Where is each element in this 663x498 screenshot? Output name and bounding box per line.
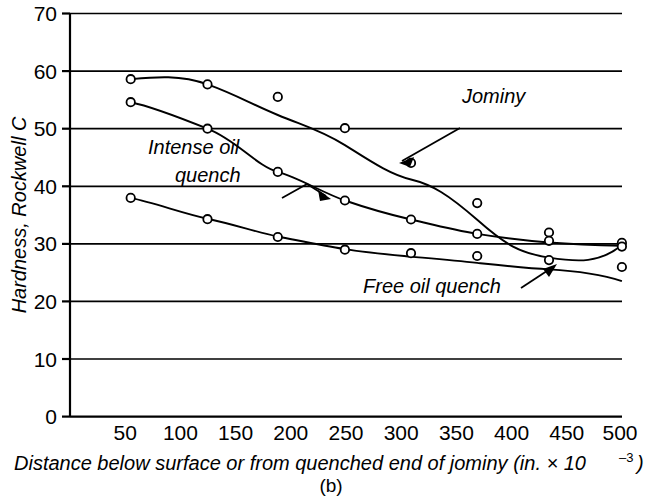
data-point [407,249,415,257]
y-tick-label-30: 30 [34,232,57,255]
data-point [473,199,481,207]
data-point [545,256,553,264]
figure-caption: (b) [319,475,342,496]
x-tick-label-50: 50 [114,421,137,444]
x-tick-label-350: 350 [439,421,474,444]
data-point [127,98,135,106]
data-point [274,93,282,101]
data-point [274,233,282,241]
data-point [341,196,349,204]
gridlines [70,14,622,360]
y-tick-label-70: 70 [34,2,57,25]
chart-canvas: 70 60 50 40 30 20 10 0 50 100 150 200 25… [0,0,663,498]
jominy-leader-line [402,128,460,161]
data-point [203,215,211,223]
x-tick-label-450: 450 [549,421,584,444]
data-point [203,125,211,133]
x-axis-title: Distance below surface or from quenched … [14,450,644,474]
y-tick-label-20: 20 [34,290,57,313]
x-axis-title-exponent: –3 [619,450,633,465]
y-tick-label-40: 40 [34,175,57,198]
intense-oil-quench-annotation-label-line1: Intense oil [148,136,240,158]
x-tick-label-300: 300 [384,421,419,444]
axes [62,14,622,417]
x-axis-title-main: Distance below surface or from quenched … [14,452,586,474]
data-point [407,215,415,223]
x-tick-label-150: 150 [218,421,253,444]
free-oil-quench-annotation: Free oil quench [363,264,557,297]
data-point [545,228,553,236]
data-point [618,263,626,271]
y-tick-label-60: 60 [34,60,57,83]
figure-panel-b: 70 60 50 40 30 20 10 0 50 100 150 200 25… [0,0,663,498]
x-tick-labels: 50 100 150 200 250 300 350 400 450 500 [114,421,638,444]
x-tick-label-100: 100 [163,421,198,444]
jominy-annotation-label: Jominy [461,85,526,107]
x-tick-label-400: 400 [494,421,529,444]
x-tick-label-250: 250 [328,421,363,444]
intense-oil-quench-annotation-label-line2: quench [175,164,241,186]
y-tick-label-0: 0 [45,405,57,428]
data-point [274,168,282,176]
x-tick-label-200: 200 [273,421,308,444]
intense-oil-quench-annotation: Intense oil quench [148,136,331,201]
data-point [203,80,211,88]
data-point [473,230,481,238]
y-tick-labels: 70 60 50 40 30 20 10 0 [34,2,57,428]
y-axis-title: Hardness, Rockwell C [8,116,30,313]
data-point [127,75,135,83]
data-point [341,246,349,254]
y-tick-label-50: 50 [34,117,57,140]
x-axis-title-tail: ) [635,452,644,474]
x-tick-label-500: 500 [602,421,637,444]
y-tick-label-10: 10 [34,348,57,371]
data-point [127,194,135,202]
data-point [545,237,553,245]
jominy-annotation: Jominy [399,85,526,167]
data-point [618,242,626,250]
free-oil-quench-annotation-label: Free oil quench [363,275,501,297]
data-point [341,124,349,132]
data-point [473,252,481,260]
